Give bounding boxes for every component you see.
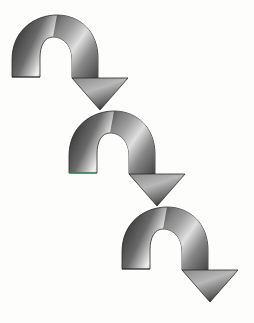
arrow-2 <box>69 111 185 206</box>
arrow-3 <box>122 207 238 302</box>
arrow-1 <box>12 15 128 110</box>
cascading-arrows-diagram <box>0 0 254 323</box>
